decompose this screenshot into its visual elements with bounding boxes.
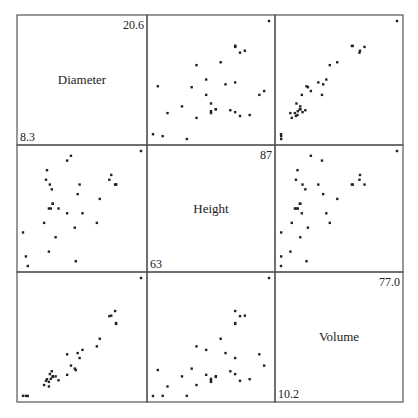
data-point: [57, 207, 59, 209]
data-point: [205, 374, 207, 376]
data-point: [66, 374, 68, 376]
data-point: [51, 188, 53, 190]
data-point: [224, 352, 226, 354]
data-point: [74, 226, 76, 228]
data-point: [54, 375, 56, 377]
data-point: [294, 112, 296, 114]
data-point: [161, 135, 163, 137]
data-point: [52, 203, 54, 205]
data-point: [78, 183, 80, 185]
data-point: [234, 373, 236, 375]
data-point: [70, 364, 72, 366]
data-point: [307, 226, 309, 228]
data-point: [181, 375, 183, 377]
data-point: [49, 183, 51, 185]
data-point: [195, 345, 197, 347]
data-point: [157, 369, 159, 371]
data-point: [46, 378, 48, 380]
data-point: [351, 183, 353, 185]
data-point: [152, 395, 154, 397]
data-point: [48, 381, 50, 383]
data-point: [325, 212, 327, 214]
data-point: [75, 260, 77, 262]
data-point: [289, 250, 291, 252]
data-point: [321, 94, 323, 96]
data-point: [234, 81, 236, 83]
min-value-label: 10.2: [278, 387, 299, 401]
data-point: [234, 111, 236, 113]
data-point: [43, 222, 45, 224]
data-point: [289, 112, 291, 114]
panel-diameter-vs-height: [147, 15, 275, 145]
data-point: [359, 50, 361, 52]
data-point: [336, 198, 338, 200]
data-point: [396, 150, 398, 152]
data-point: [166, 385, 168, 387]
data-point: [359, 174, 361, 176]
data-point: [45, 179, 47, 181]
data-point: [280, 231, 282, 233]
data-point: [96, 345, 98, 347]
data-point: [248, 114, 250, 116]
data-point: [96, 222, 98, 224]
data-point: [310, 90, 312, 92]
data-point: [50, 207, 52, 209]
data-point: [301, 212, 303, 214]
data-point: [296, 169, 298, 171]
data-point: [317, 81, 319, 83]
data-point: [299, 203, 301, 205]
data-point: [152, 133, 154, 135]
data-point: [239, 51, 241, 53]
min-value-label: 8.3: [20, 130, 35, 144]
data-point: [325, 78, 327, 80]
data-point: [329, 64, 331, 66]
max-value-label: 87: [260, 148, 272, 162]
data-point: [195, 117, 197, 119]
data-point: [219, 338, 221, 340]
data-point: [291, 222, 293, 224]
data-point: [70, 155, 72, 157]
data-point: [301, 111, 303, 113]
data-point: [115, 323, 117, 325]
data-point: [54, 236, 56, 238]
data-point: [322, 83, 324, 85]
data-point: [322, 193, 324, 195]
data-point: [310, 155, 312, 157]
data-point: [195, 384, 197, 386]
data-point: [363, 183, 365, 185]
data-point: [301, 94, 303, 96]
data-point: [25, 255, 27, 257]
data-point: [263, 90, 265, 92]
panel-diameter-vs-volume: [275, 15, 403, 145]
data-point: [263, 364, 265, 366]
data-point: [244, 314, 246, 316]
panel-height-vs-diameter: [17, 145, 147, 272]
data-point: [336, 61, 338, 63]
data-point: [215, 108, 217, 110]
data-point: [304, 109, 306, 111]
scatterplot-matrix: Diameter20.68.3Height8763Volume77.010.2: [0, 0, 418, 418]
data-point: [351, 45, 353, 47]
data-point: [140, 277, 142, 279]
data-point: [166, 112, 168, 114]
variable-label: Volume: [319, 329, 359, 344]
panel-volume-vs-height: [147, 272, 275, 402]
data-point: [195, 64, 197, 66]
data-point: [219, 61, 221, 63]
panel-volume-vs-volume: Volume77.010.2: [275, 272, 403, 402]
data-point: [210, 110, 212, 112]
data-point: [239, 115, 241, 117]
panel-diameter-vs-diameter: Diameter20.68.3: [17, 15, 147, 145]
min-value-label: 63: [150, 257, 162, 271]
data-point: [248, 378, 250, 380]
data-point: [295, 179, 297, 181]
data-point: [239, 315, 241, 317]
data-point: [81, 349, 83, 351]
data-point: [205, 94, 207, 96]
data-point: [110, 314, 112, 316]
data-point: [234, 323, 236, 325]
data-point: [329, 222, 331, 224]
data-point: [239, 380, 241, 382]
data-point: [205, 78, 207, 80]
data-point: [115, 183, 117, 185]
